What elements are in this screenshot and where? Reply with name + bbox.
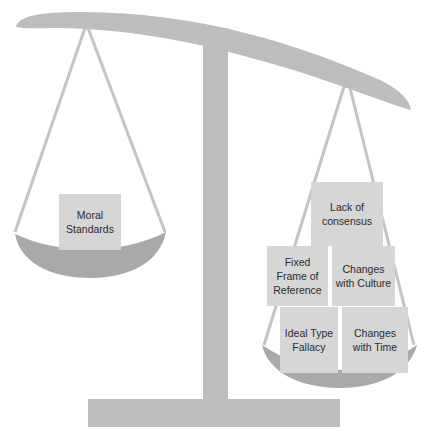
base <box>88 399 340 427</box>
right-pan-box-fixed-frame-of-reference: Fixed Frame of Reference <box>267 246 328 306</box>
box-label: Changes with Culture <box>334 262 393 290</box>
box-label: Ideal Type Fallacy <box>282 326 336 354</box>
pillar <box>203 28 228 404</box>
box-label: Changes with Time <box>344 326 406 354</box>
left-pan-box-moral-standards: Moral Standards <box>59 194 121 250</box>
box-label: Fixed Frame of Reference <box>269 255 326 297</box>
box-label: Moral Standards <box>61 208 119 236</box>
right-pan-box-ideal-type-fallacy: Ideal Type Fallacy <box>280 307 338 373</box>
right-pan-box-changes-with-culture: Changes with Culture <box>332 246 395 306</box>
right-pan-box-lack-of-consensus: Lack of consensus <box>311 182 383 246</box>
right-pan-box-changes-with-time: Changes with Time <box>342 307 408 373</box>
box-label: Lack of consensus <box>313 200 381 228</box>
